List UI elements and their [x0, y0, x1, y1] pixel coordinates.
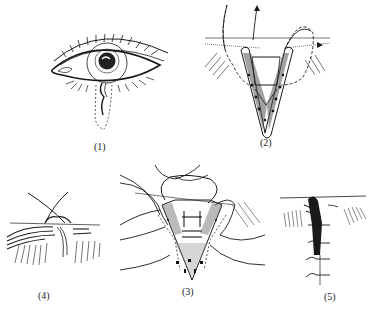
completed-closure-illustration [278, 185, 378, 290]
panel-2-wedge [205, 5, 335, 140]
panel-3-wedge-closure [120, 165, 265, 285]
panel-4-margin-suture [5, 185, 105, 275]
panel-1-eye [40, 25, 170, 140]
wedge-illustration [205, 5, 335, 140]
panel-4-label: (4) [38, 290, 50, 301]
panel-1-label: (1) [94, 141, 106, 152]
panel-5-completed-closure [278, 185, 378, 290]
margin-suture-illustration [5, 185, 105, 275]
panel-2-label: (2) [260, 137, 272, 148]
wedge-closure-illustration [120, 165, 265, 285]
panel-3-label: (3) [182, 286, 194, 297]
eye-illustration [40, 25, 170, 140]
panel-5-label: (5) [324, 291, 336, 302]
